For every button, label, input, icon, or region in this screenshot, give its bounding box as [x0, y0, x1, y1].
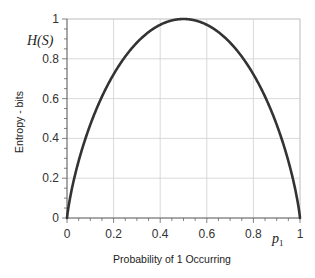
x-tick-label: 0.4 — [152, 227, 169, 241]
x-tick-label: 0.8 — [245, 227, 262, 241]
x-axis-title: Probability of 1 Occurring — [113, 253, 231, 265]
y-tick-label: 0.8 — [42, 52, 59, 66]
y-annotation-hs: H(S) — [26, 33, 54, 49]
x-tick-labels: 00.20.40.60.81 — [64, 227, 304, 241]
grid-lines — [67, 19, 300, 218]
entropy-chart: 00.20.40.60.81 00.20.40.60.81 H(S) p1 Pr… — [0, 0, 315, 278]
y-axis-title: Entropy - bits — [13, 91, 25, 153]
y-tick-label: 0.2 — [42, 171, 59, 185]
y-tick-label: 0.4 — [42, 131, 59, 145]
y-tick-label: 1 — [52, 12, 59, 26]
axes — [67, 19, 301, 218]
x-tick-label: 1 — [297, 227, 304, 241]
y-tick-label: 0 — [52, 211, 59, 225]
x-annotation-p1: p1 — [271, 231, 284, 248]
axis-ticks — [62, 19, 300, 223]
y-tick-label: 0.6 — [42, 92, 59, 106]
x-tick-label: 0.2 — [105, 227, 122, 241]
x-tick-label: 0 — [64, 227, 71, 241]
entropy-curve — [67, 19, 300, 218]
x-annotation-subscript: 1 — [279, 238, 284, 248]
x-tick-label: 0.6 — [198, 227, 215, 241]
plot-frame — [67, 19, 300, 218]
x-annotation-p: p — [271, 231, 279, 246]
